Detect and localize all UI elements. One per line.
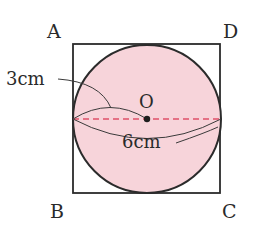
center-point-o <box>144 116 150 122</box>
diameter-label: 6cm <box>122 131 161 152</box>
vertex-label-d: D <box>223 20 238 42</box>
vertex-label-a: A <box>46 20 61 42</box>
radius-label: 3cm <box>6 68 45 89</box>
geometry-diagram: A D B C O 3cm 6cm <box>0 0 260 244</box>
vertex-label-c: C <box>222 200 237 222</box>
vertex-label-b: B <box>50 200 64 222</box>
center-label-o: O <box>139 91 154 112</box>
